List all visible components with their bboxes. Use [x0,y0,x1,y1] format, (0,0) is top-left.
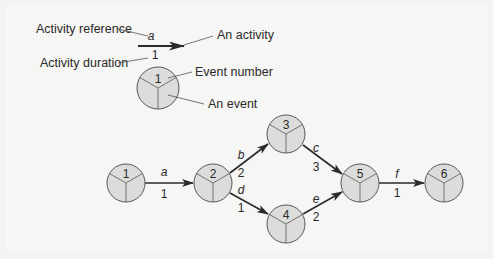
event-number-label: Event number [195,65,273,79]
event-number: 2 [210,167,217,181]
activity-duration-b: 2 [238,166,245,180]
activity-ref-d: d [238,183,245,197]
network: a 1 b 2 d 1 c 3 e 2 f 1 1 [107,115,463,243]
activity-on-node-network-diagram: Activity reference a An activity 1 Activ… [0,0,493,259]
activity-arrow-b [230,144,268,173]
activity-ref-a: a [161,165,168,179]
sample-activity-duration: 1 [152,48,159,62]
activity-duration-d: 1 [238,201,245,215]
an-activity-leader-line [184,36,213,45]
diagram-canvas: Activity reference a An activity 1 Activ… [0,0,493,259]
event-node-1: 1 [107,164,145,202]
activity-ref-f: f [395,167,400,181]
event-number: 6 [441,167,448,181]
event-number: 3 [283,118,290,132]
an-activity-label: An activity [217,28,275,42]
activity-ref-b: b [238,148,245,162]
activity-duration-a: 1 [161,187,168,201]
event-node-6: 6 [425,164,463,202]
event-node-5: 5 [341,164,379,202]
activity-reference-label: Activity reference [36,22,132,36]
activity-arrow-e [303,192,342,214]
activity-ref-e: e [313,192,320,206]
activity-duration-label: Activity duration [40,56,128,70]
activity-duration-f: 1 [394,186,401,200]
event-node-3: 3 [267,115,305,153]
sample-event-number: 1 [155,72,162,86]
activity-ref-c: c [313,141,319,155]
legend: Activity reference a An activity 1 Activ… [36,22,275,111]
event-node-4: 4 [267,205,305,243]
activity-duration-c: 3 [313,160,320,174]
an-event-label: An event [208,97,258,111]
event-node-2: 2 [194,164,232,202]
sample-activity-ref: a [148,29,155,43]
event-number: 5 [357,167,364,181]
activity-arrow-d [230,193,268,214]
event-number: 1 [123,167,130,181]
sample-event-node: 1 [137,67,179,109]
event-number: 4 [283,208,290,222]
activity-arrow-c [303,145,342,174]
activity-duration-e: 2 [313,210,320,224]
